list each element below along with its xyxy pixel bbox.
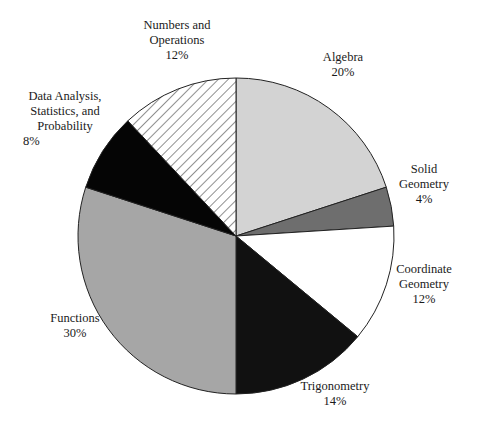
- label-line: Solid: [393, 162, 455, 177]
- label-pct: 20%: [303, 65, 383, 80]
- label-pct: 12%: [122, 48, 232, 63]
- label-pct: 4%: [393, 192, 455, 207]
- label-line: Data Analysis,: [15, 89, 115, 104]
- label-line: Geometry: [393, 177, 455, 192]
- label-line: Trigonometry: [290, 379, 380, 394]
- label-pct: 8%: [15, 134, 115, 149]
- label-line: Probability: [15, 119, 115, 134]
- label-line: Numbers and: [122, 18, 232, 33]
- label-pct: 12%: [388, 292, 460, 307]
- label-line: Functions: [40, 311, 110, 326]
- label-pct: 30%: [40, 326, 110, 341]
- label-functions: Functions 30%: [40, 311, 110, 341]
- label-line: Geometry: [388, 277, 460, 292]
- label-line: Operations: [122, 33, 232, 48]
- label-line: Statistics, and: [15, 104, 115, 119]
- label-trigonometry: Trigonometry 14%: [290, 379, 380, 409]
- label-data-analysis: Data Analysis, Statistics, and Probabili…: [15, 89, 115, 149]
- label-line: Coordinate: [388, 262, 460, 277]
- label-solid-geometry: Solid Geometry 4%: [393, 162, 455, 207]
- label-coordinate-geometry: Coordinate Geometry 12%: [388, 262, 460, 307]
- label-algebra: Algebra 20%: [303, 50, 383, 80]
- pie-chart: [0, 0, 478, 423]
- label-line: Algebra: [303, 50, 383, 65]
- pie-slices: [78, 78, 394, 394]
- label-pct: 14%: [290, 394, 380, 409]
- label-numbers-and-operations: Numbers and Operations 12%: [122, 18, 232, 63]
